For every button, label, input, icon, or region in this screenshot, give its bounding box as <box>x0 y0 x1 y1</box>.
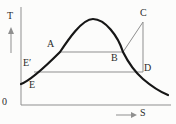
point-label-E-prime: E′ <box>23 57 31 68</box>
ts-diagram-figure: T 0 S A B C D E′ E <box>0 0 176 124</box>
saturation-dome-curve <box>21 19 168 95</box>
point-label-B: B <box>111 52 118 63</box>
point-label-E: E <box>29 79 35 90</box>
point-label-D: D <box>144 62 151 73</box>
point-label-C: C <box>140 7 147 18</box>
point-label-A: A <box>47 38 54 49</box>
s-axis-arrow-icon <box>116 112 137 118</box>
line-B-C <box>123 22 143 52</box>
t-axis-arrow-icon <box>8 27 14 53</box>
x-axis-label: S <box>140 107 146 118</box>
y-axis-label: T <box>7 10 13 21</box>
origin-label: 0 <box>2 96 7 107</box>
